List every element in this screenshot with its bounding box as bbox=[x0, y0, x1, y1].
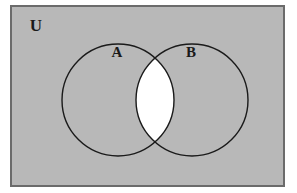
set-a-label: A bbox=[112, 44, 123, 60]
venn-diagram-figure: U A B bbox=[0, 0, 297, 193]
set-b-label: B bbox=[186, 44, 196, 60]
universe-label: U bbox=[30, 16, 42, 35]
venn-diagram-canvas: U A B bbox=[0, 0, 297, 193]
